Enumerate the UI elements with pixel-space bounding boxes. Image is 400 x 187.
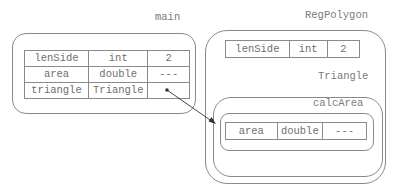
reference-arrow — [0, 0, 400, 187]
arrowhead-icon — [209, 117, 217, 124]
reference-line — [167, 90, 213, 122]
